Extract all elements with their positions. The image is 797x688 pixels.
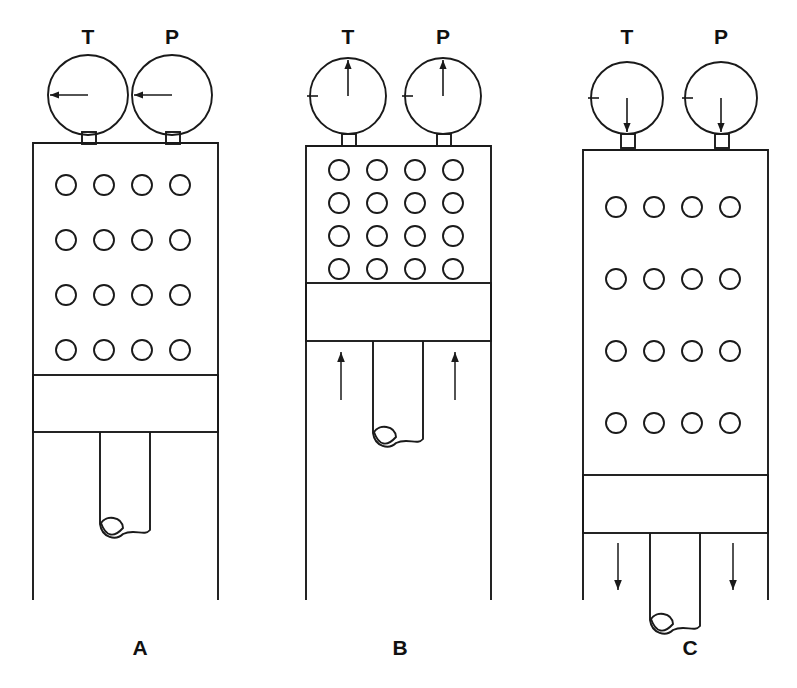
panel-label-c: C [682,636,697,659]
panels-group: TPATPBTPC [33,25,768,659]
panel-a: TPA [33,25,218,659]
gas-molecule [367,226,387,246]
force-arrow-head-down [729,580,737,590]
piston-rod [373,341,423,447]
gas-molecule [682,197,702,217]
gas-molecule [644,269,664,289]
gauge-label-p: P [714,25,728,48]
gauge-label-t: T [82,25,95,48]
gauge-pressure-gauge-b: P [402,25,481,146]
gas-molecule [132,175,152,195]
gauge-temperature-gauge-b: T [307,25,386,146]
gas-molecule [367,259,387,279]
piston-rod-broken-end [651,614,673,631]
panel-b: TPB [306,25,491,659]
gas-molecule [720,413,740,433]
gas-molecules [56,175,190,360]
gauge-needle-arrowhead [717,123,724,132]
gas-molecule [329,226,349,246]
gas-molecule [443,259,463,279]
force-arrows [337,352,459,400]
gas-molecule [682,269,702,289]
panel-c: TPC [583,25,768,659]
gas-molecule [94,285,114,305]
cylinder-body [306,146,491,600]
gauge-needle-arrowhead [439,60,446,69]
piston-rod-outline [100,432,150,538]
gas-molecules [606,197,740,433]
force-arrow-head-down [614,580,622,590]
force-arrows [614,543,737,590]
gas-molecule [94,175,114,195]
gas-molecule [606,413,626,433]
gas-molecules [329,160,463,279]
gas-molecule [443,160,463,180]
gas-molecule [56,230,76,250]
gauge-label-p: P [165,25,179,48]
gauge-pressure-gauge-c: P [682,25,757,148]
gauge-label-t: T [621,25,634,48]
gas-molecule [405,193,425,213]
piston-rod-outline [373,341,423,447]
gauge-needle-arrowhead [134,91,143,98]
piston-head [583,475,768,533]
piston-rod [650,533,700,634]
gas-molecule [132,285,152,305]
gas-molecule [405,226,425,246]
gauge-stem [715,134,729,148]
gas-molecule [132,340,152,360]
panel-label-b: B [392,636,407,659]
gauge-needle-arrowhead [623,123,630,132]
gauge-stem [342,134,356,146]
piston-head [306,283,491,341]
gas-molecule [443,193,463,213]
gauge-temperature-gauge-c: T [588,25,663,148]
gas-molecule [170,285,190,305]
gas-piston-diagram: TPATPBTPC [0,0,797,688]
piston-rod-broken-end [374,427,396,444]
gas-molecule [329,193,349,213]
gas-molecule [170,230,190,250]
gas-molecule [170,175,190,195]
piston-head [33,375,218,432]
gas-molecule [94,340,114,360]
piston-rod-outline [650,533,700,634]
gauge-stem [621,134,635,148]
gas-molecule [606,197,626,217]
cylinder-walls [306,146,491,600]
gas-molecule [56,175,76,195]
gas-molecule [405,160,425,180]
gas-molecule [644,341,664,361]
gas-molecule [606,269,626,289]
gauge-label-t: T [342,25,355,48]
gauge-temperature-gauge-a: T [48,25,128,144]
gas-molecule [644,197,664,217]
gas-molecule [56,340,76,360]
gas-molecule [132,230,152,250]
cylinder-body [33,143,218,600]
gas-molecule [443,226,463,246]
gas-molecule [720,197,740,217]
gas-molecule [405,259,425,279]
gas-molecule [644,413,664,433]
gas-molecule [682,413,702,433]
gas-molecule [606,341,626,361]
gauge-needle-arrowhead [344,60,351,69]
diagram-canvas: TPATPBTPC [0,0,797,688]
gauge-pressure-gauge-a: P [132,25,212,144]
gas-molecule [329,160,349,180]
gas-molecule [94,230,114,250]
gas-molecule [170,340,190,360]
force-arrow-head-up [451,352,459,362]
gas-molecule [720,269,740,289]
gauge-needle-arrowhead [50,91,59,98]
piston-rod [100,432,150,538]
gauge-label-p: P [436,25,450,48]
gas-molecule [56,285,76,305]
force-arrow-head-up [337,352,345,362]
gas-molecule [367,193,387,213]
cylinder-walls [33,143,218,600]
gas-molecule [720,341,740,361]
gas-molecule [682,341,702,361]
gauge-stem [437,134,451,146]
